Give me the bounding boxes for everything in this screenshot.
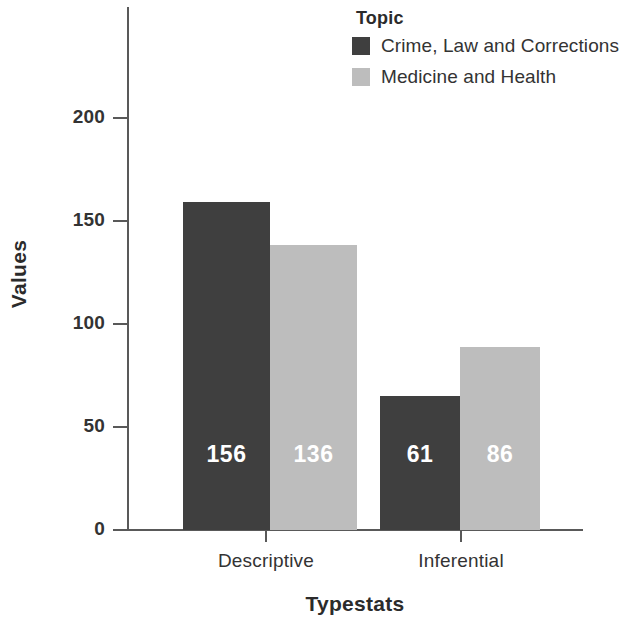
legend-item-medicine-and-health[interactable]: Medicine and Health [352,66,619,88]
bar-value-label: 156 [183,441,270,468]
x-tick-mark-descriptive [265,531,267,542]
x-axis-title: Typestats [127,592,583,616]
bar-descriptive-crime-law-and-corrections[interactable]: 156 [183,202,270,530]
bar-value-label: 86 [460,441,540,468]
y-tick-label: 0 [41,518,105,540]
bar-chart: 200 150 100 50 0 Values Typestats Descri… [0,0,635,623]
legend-swatch-icon [352,68,370,86]
legend-item-label: Medicine and Health [381,66,556,88]
x-category-label-descriptive: Descriptive [166,550,366,572]
y-tick-label: 50 [41,415,105,437]
bar-value-label: 61 [380,441,460,468]
legend-swatch-icon [352,37,370,55]
legend: Topic Crime, Law and Corrections Medicin… [352,8,619,97]
y-tick-mark [113,529,127,531]
y-tick-label: 200 [41,106,105,128]
legend-item-crime-law-and-corrections[interactable]: Crime, Law and Corrections [352,35,619,57]
y-axis-title: Values [7,219,31,329]
bar-value-label: 136 [270,441,357,468]
x-tick-mark-inferential [460,531,462,542]
x-category-label-inferential: Inferential [361,550,561,572]
y-tick-mark [113,220,127,222]
bar-inferential-crime-law-and-corrections[interactable]: 61 [380,396,460,530]
legend-title: Topic [356,8,619,29]
y-tick-mark [113,117,127,119]
y-axis-line [127,7,129,531]
y-tick-mark [113,323,127,325]
bar-inferential-medicine-and-health[interactable]: 86 [460,347,540,530]
y-tick-mark [113,426,127,428]
bar-descriptive-medicine-and-health[interactable]: 136 [270,245,357,530]
y-tick-label: 100 [41,312,105,334]
legend-item-label: Crime, Law and Corrections [381,35,619,57]
y-tick-label: 150 [41,209,105,231]
